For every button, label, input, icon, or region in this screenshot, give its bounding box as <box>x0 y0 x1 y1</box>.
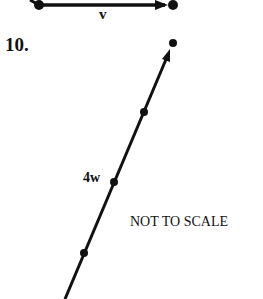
point-dot <box>169 39 177 47</box>
point-dot <box>34 0 44 10</box>
vector-4w <box>65 39 177 299</box>
diagram-canvas <box>0 0 263 299</box>
point-dot <box>140 108 148 116</box>
arrowhead-icon <box>162 49 170 62</box>
not-to-scale-note: NOT TO SCALE <box>130 214 228 230</box>
point-dot <box>168 0 178 10</box>
vector-v-label: v <box>99 6 107 23</box>
arrowhead-icon <box>155 0 168 10</box>
problem-number: 10. <box>5 34 29 56</box>
point-dot <box>80 249 88 257</box>
vector-4w-label: 4w <box>83 170 100 186</box>
point-dot <box>110 178 118 186</box>
